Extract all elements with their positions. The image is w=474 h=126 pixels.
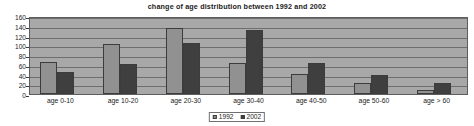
bar-2002-age-50-60	[371, 75, 388, 95]
chart-title: change of age distribution between 1992 …	[0, 2, 474, 11]
x-tick-label: age 20-30	[170, 97, 201, 105]
x-tick-label: age > 60	[423, 97, 450, 105]
plot-inner	[30, 18, 467, 94]
bar-2002-age-20-30	[183, 43, 200, 94]
x-tick-label: age 10-20	[108, 97, 139, 105]
gridline	[30, 18, 467, 19]
plot-area	[29, 17, 468, 95]
legend-entry-1992[interactable]: 1992	[213, 114, 234, 121]
bar-1992-age-10-20	[103, 44, 120, 94]
x-tick-label: age 30-40	[233, 97, 264, 105]
bar-2002-age-40-50	[308, 63, 325, 94]
legend-label: 1992	[219, 114, 234, 121]
bar-2002-age-30-40	[246, 30, 263, 94]
x-tick-label: age 40-50	[296, 97, 327, 105]
y-tick-label: 100	[15, 44, 26, 51]
y-tick-label: 160	[15, 15, 26, 22]
bar-1992-age-40-50	[291, 74, 308, 94]
legend-entry-2002[interactable]: 2002	[241, 114, 262, 121]
bar-2002-age->-60	[434, 83, 451, 94]
y-tick-label: 80	[19, 54, 26, 61]
bar-1992-age->-60	[417, 90, 434, 94]
y-tick-label: 20	[19, 83, 26, 90]
y-tick-label: 140	[15, 24, 26, 31]
legend-label: 2002	[247, 114, 262, 121]
legend-swatch-icon	[241, 115, 245, 119]
x-tick-label: age 0-10	[47, 97, 74, 105]
bar-1992-age-20-30	[166, 28, 183, 94]
legend-swatch-icon	[213, 115, 217, 119]
y-axis: 160140120100806040200	[0, 17, 26, 95]
gridline	[30, 28, 467, 29]
chart-container: change of age distribution between 1992 …	[0, 0, 474, 126]
bar-1992-age-50-60	[354, 83, 371, 94]
y-tick-label: 60	[19, 63, 26, 70]
bar-1992-age-30-40	[229, 63, 246, 94]
x-axis: age 0-10age 10-20age 20-30age 30-40age 4…	[29, 96, 468, 108]
y-tick-label: 120	[15, 34, 26, 41]
bar-1992-age-0-10	[40, 62, 57, 94]
x-tick-label: age 50-60	[359, 97, 390, 105]
bar-2002-age-10-20	[120, 64, 137, 94]
chart-legend: 19922002	[209, 112, 265, 122]
bar-2002-age-0-10	[57, 72, 74, 94]
y-tick-label: 40	[19, 73, 26, 80]
